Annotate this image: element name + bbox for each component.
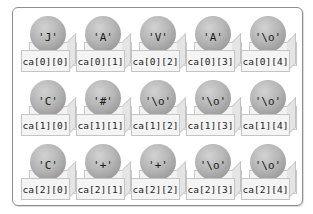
array-cell: '+' ca[2][2] bbox=[131, 142, 185, 202]
array-diagram-frame: 'J' ca[0][0] 'A' ca[0][1] 'V' ca[0][2] '… bbox=[12, 7, 303, 206]
cell-index: ca[0][2] bbox=[133, 56, 179, 67]
cell-value: 'A' bbox=[203, 31, 223, 44]
array-cell: 'A' ca[0][1] bbox=[76, 14, 130, 74]
sphere-icon: '#' bbox=[85, 80, 121, 116]
cell-value: 'V' bbox=[148, 31, 168, 44]
cell-value: '\o' bbox=[255, 95, 282, 108]
sphere-icon: 'C' bbox=[30, 144, 66, 180]
cell-value: 'J' bbox=[38, 31, 58, 44]
box-front: ca[1][1] bbox=[76, 114, 125, 136]
array-cell: 'A' ca[0][3] bbox=[186, 14, 240, 74]
array-cell: 'J' ca[0][0] bbox=[21, 14, 75, 74]
cell-index: ca[0][4] bbox=[243, 56, 289, 67]
sphere-icon: '\o' bbox=[195, 144, 231, 180]
cell-value: '\o' bbox=[255, 159, 282, 172]
cell-value: '\o' bbox=[200, 159, 227, 172]
box-front: ca[2][3] bbox=[186, 178, 235, 200]
sphere-icon: '\o' bbox=[140, 80, 176, 116]
sphere-icon: '+' bbox=[85, 144, 121, 180]
array-cell: '\o' ca[1][4] bbox=[241, 78, 295, 138]
box-front: ca[0][2] bbox=[131, 50, 180, 72]
cell-value: '\o' bbox=[200, 95, 227, 108]
cell-value: 'C' bbox=[38, 159, 58, 172]
sphere-icon: '\o' bbox=[250, 16, 286, 52]
box-front: ca[2][4] bbox=[241, 178, 290, 200]
box-front: ca[1][3] bbox=[186, 114, 235, 136]
cell-value: 'C' bbox=[38, 95, 58, 108]
box-front: ca[2][2] bbox=[131, 178, 180, 200]
cell-value: 'A' bbox=[93, 31, 113, 44]
sphere-icon: '+' bbox=[140, 144, 176, 180]
cell-value: '\o' bbox=[255, 31, 282, 44]
cell-index: ca[2][2] bbox=[133, 184, 179, 195]
array-cell: '+' ca[2][1] bbox=[76, 142, 130, 202]
cell-index: ca[0][3] bbox=[188, 56, 234, 67]
array-cell: '\o' ca[1][2] bbox=[131, 78, 185, 138]
cell-value: '+' bbox=[93, 159, 113, 172]
cell-value: '+' bbox=[148, 159, 168, 172]
box-front: ca[2][0] bbox=[21, 178, 70, 200]
array-cell: '\o' ca[2][3] bbox=[186, 142, 240, 202]
cell-index: ca[2][4] bbox=[243, 184, 289, 195]
array-cell: 'V' ca[0][2] bbox=[131, 14, 185, 74]
cell-value: '\o' bbox=[145, 95, 172, 108]
box-front: ca[1][2] bbox=[131, 114, 180, 136]
cell-index: ca[0][0] bbox=[23, 56, 69, 67]
box-front: ca[0][0] bbox=[21, 50, 70, 72]
cell-value: '#' bbox=[93, 95, 113, 108]
box-front: ca[0][4] bbox=[241, 50, 290, 72]
cell-index: ca[2][1] bbox=[78, 184, 124, 195]
sphere-icon: 'C' bbox=[30, 80, 66, 116]
array-cell: 'C' ca[1][0] bbox=[21, 78, 75, 138]
cell-index: ca[0][1] bbox=[78, 56, 124, 67]
sphere-icon: '\o' bbox=[195, 80, 231, 116]
sphere-icon: 'J' bbox=[30, 16, 66, 52]
cell-index: ca[1][2] bbox=[133, 120, 179, 131]
cell-index: ca[2][0] bbox=[23, 184, 69, 195]
cell-index: ca[1][0] bbox=[23, 120, 69, 131]
box-front: ca[1][0] bbox=[21, 114, 70, 136]
array-cell: 'C' ca[2][0] bbox=[21, 142, 75, 202]
array-cell: '\o' ca[0][4] bbox=[241, 14, 295, 74]
box-front: ca[1][4] bbox=[241, 114, 290, 136]
sphere-icon: 'A' bbox=[195, 16, 231, 52]
sphere-icon: '\o' bbox=[250, 80, 286, 116]
box-front: ca[0][3] bbox=[186, 50, 235, 72]
box-front: ca[0][1] bbox=[76, 50, 125, 72]
array-cell: '\o' ca[2][4] bbox=[241, 142, 295, 202]
box-front: ca[2][1] bbox=[76, 178, 125, 200]
cell-index: ca[1][1] bbox=[78, 120, 124, 131]
sphere-icon: 'A' bbox=[85, 16, 121, 52]
sphere-icon: 'V' bbox=[140, 16, 176, 52]
cell-index: ca[1][3] bbox=[188, 120, 234, 131]
sphere-icon: '\o' bbox=[250, 144, 286, 180]
cell-index: ca[2][3] bbox=[188, 184, 234, 195]
cell-index: ca[1][4] bbox=[243, 120, 289, 131]
array-cell: '#' ca[1][1] bbox=[76, 78, 130, 138]
array-cell: '\o' ca[1][3] bbox=[186, 78, 240, 138]
